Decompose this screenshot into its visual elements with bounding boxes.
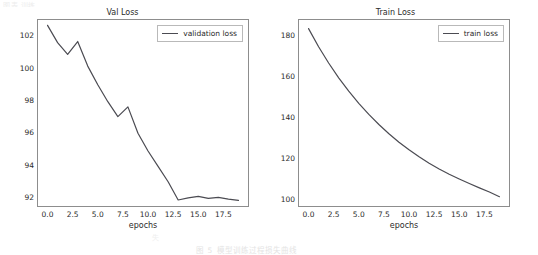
legend-swatch-validation-loss: [162, 33, 178, 34]
cropped-caption-bottom-center: 图 5 模型训练过程损失曲线: [196, 244, 297, 255]
ytick-label: 102: [20, 31, 34, 40]
ytick-label: 120: [281, 154, 295, 163]
xtick-label: 10.0: [140, 210, 157, 219]
xtick-label: 2.5: [67, 210, 79, 219]
legend-label-train-loss: train loss: [464, 29, 498, 38]
xtick-label: 5.0: [92, 210, 104, 219]
xaxis-label-val-loss: epochs: [129, 221, 158, 230]
series-line-train-loss: [309, 29, 500, 197]
xtick-label: 2.5: [328, 210, 340, 219]
chart-title-val-loss: Val Loss: [0, 8, 257, 17]
legend-val-loss: validation loss: [157, 25, 243, 42]
cropped-caption-bottom: 失: [152, 232, 160, 242]
xtick-label: 17.5: [476, 210, 493, 219]
ytick-label: 92: [24, 193, 34, 202]
plot-area-val-loss: validation loss epochs 929496981001020.0…: [37, 19, 249, 207]
xtick-label: 15.0: [451, 210, 468, 219]
ytick-label: 98: [24, 96, 34, 105]
legend-swatch-train-loss: [443, 33, 459, 34]
ytick-label: 96: [24, 128, 34, 137]
chart-title-train-loss: Train Loss: [261, 8, 530, 17]
plot-area-train-loss: train loss epochs 1001201401601800.02.55…: [298, 19, 510, 207]
xtick-label: 0.0: [303, 210, 315, 219]
ytick-label: 160: [281, 71, 295, 80]
xtick-label: 7.5: [378, 210, 390, 219]
legend-train-loss: train loss: [438, 25, 504, 42]
subplot-val-loss: Val Loss validation loss epochs 92949698…: [0, 0, 269, 253]
ytick-label: 100: [20, 63, 34, 72]
legend-label-validation-loss: validation loss: [183, 29, 237, 38]
ytick-label: 100: [281, 195, 295, 204]
train-loss-line-svg: [299, 20, 509, 206]
xtick-label: 15.0: [190, 210, 207, 219]
xtick-label: 5.0: [353, 210, 365, 219]
xtick-label: 12.5: [426, 210, 443, 219]
val-loss-line-svg: [38, 20, 248, 206]
xtick-label: 7.5: [117, 210, 129, 219]
xtick-label: 10.0: [401, 210, 418, 219]
ytick-label: 94: [24, 160, 34, 169]
xtick-label: 0.0: [42, 210, 54, 219]
xaxis-label-train-loss: epochs: [390, 221, 419, 230]
ytick-label: 180: [281, 30, 295, 39]
xtick-label: 17.5: [215, 210, 232, 219]
xtick-label: 12.5: [165, 210, 182, 219]
ytick-label: 140: [281, 113, 295, 122]
series-line-validation-loss: [48, 25, 239, 200]
subplot-train-loss: Train Loss train loss epochs 10012014016…: [269, 0, 538, 253]
